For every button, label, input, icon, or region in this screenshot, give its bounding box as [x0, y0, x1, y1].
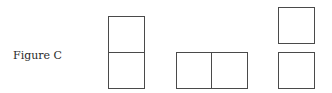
square: [278, 52, 315, 89]
square: [278, 7, 315, 44]
square: [176, 52, 213, 89]
square: [108, 16, 145, 53]
square: [211, 52, 248, 89]
square: [108, 52, 145, 89]
figure-label: Figure C: [13, 49, 62, 62]
